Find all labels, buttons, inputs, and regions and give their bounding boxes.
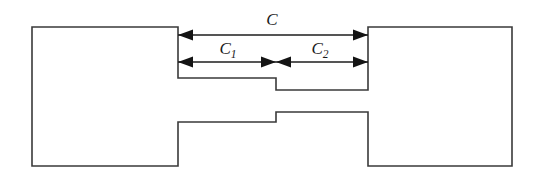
figure-container: C C1 C2 xyxy=(0,0,543,178)
c-total-label: C xyxy=(266,10,278,29)
c1-label-subscript: 1 xyxy=(231,48,237,60)
c2-label-main: C xyxy=(311,39,323,58)
c-total-label-main: C xyxy=(266,10,278,29)
c2-label-subscript: 2 xyxy=(323,48,329,60)
c1-label-main: C xyxy=(219,39,231,58)
stepped-lap-joint-diagram: C C1 C2 xyxy=(0,0,543,178)
